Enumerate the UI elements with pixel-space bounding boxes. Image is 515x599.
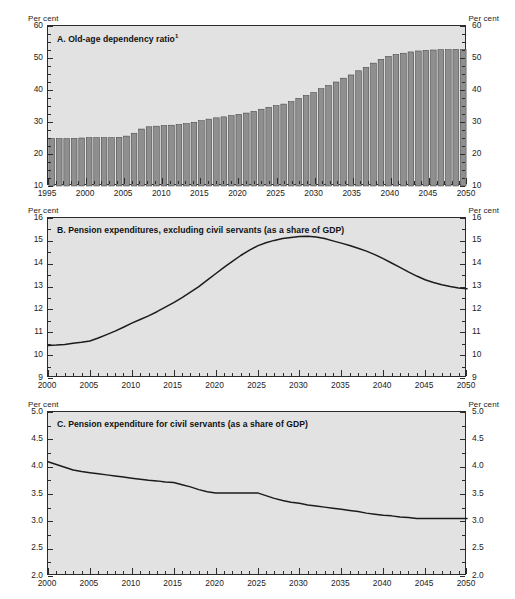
- x-axis-tick-mark: [48, 568, 49, 574]
- x-axis-tick-mark: [315, 178, 316, 184]
- x-axis-tick-mark: [199, 571, 200, 575]
- x-axis-tick-mark: [73, 373, 74, 377]
- x-axis-tick-mark: [316, 571, 317, 575]
- x-axis-tick-mark: [162, 178, 163, 184]
- x-axis-tick-mark: [408, 571, 409, 575]
- x-axis-tick-mark: [132, 568, 133, 574]
- y-axis-tick-mark: [462, 367, 465, 368]
- x-axis-tick-label: 2045: [419, 188, 438, 198]
- x-axis-tick-mark: [165, 571, 166, 575]
- x-axis-tick-mark: [149, 571, 150, 575]
- x-axis-tick-mark: [330, 181, 331, 185]
- x-axis-tick-mark: [368, 181, 369, 185]
- x-axis-tick-mark: [292, 181, 293, 185]
- x-axis-tick-label: 2040: [373, 578, 392, 588]
- bar: [146, 127, 152, 186]
- y-axis-tick-mark: [460, 287, 465, 288]
- x-axis-tick-mark: [316, 373, 317, 377]
- x-axis-tick-mark: [350, 373, 351, 377]
- y-axis-tick-mark: [460, 355, 465, 356]
- y-axis-tick-mark: [460, 154, 465, 155]
- x-axis-tick-mark: [353, 178, 354, 184]
- x-axis-tick-mark: [254, 181, 255, 185]
- bar: [176, 125, 182, 186]
- y-axis-tick-label-left: 5.0: [7, 407, 43, 415]
- x-axis-tick-mark: [123, 373, 124, 377]
- y-axis-tick-label-left: 2.5: [7, 543, 43, 551]
- x-axis-tick-mark: [425, 568, 426, 574]
- y-axis-tick-label-left: 15: [7, 235, 43, 243]
- y-axis-tick-mark: [48, 309, 53, 310]
- y-axis-tick-mark: [460, 549, 465, 550]
- x-axis-tick-mark: [400, 571, 401, 575]
- y-axis-tick-mark: [462, 130, 465, 131]
- bar: [341, 78, 347, 186]
- x-axis-tick-mark: [140, 373, 141, 377]
- y-axis-tick-mark: [48, 467, 53, 468]
- x-axis-tick-mark: [231, 181, 232, 185]
- x-axis-tick-mark: [147, 181, 148, 185]
- x-axis-tick-label: 2010: [152, 188, 171, 198]
- x-axis-tick-mark: [459, 373, 460, 377]
- x-axis-tick-mark: [366, 571, 367, 575]
- bar: [333, 82, 339, 186]
- bar: [206, 119, 212, 186]
- y-axis-tick-label-left: 40: [7, 85, 43, 93]
- x-axis-tick-mark: [232, 373, 233, 377]
- y-axis-tick-mark: [48, 34, 51, 35]
- bar: [79, 138, 85, 186]
- x-axis-tick-mark: [109, 181, 110, 185]
- bar: [139, 129, 145, 186]
- y-axis-tick-mark: [48, 298, 51, 299]
- data-line: [48, 236, 467, 345]
- x-axis-tick-mark: [277, 178, 278, 184]
- y-axis-tick-mark: [462, 480, 465, 481]
- x-axis-tick-mark: [266, 571, 267, 575]
- y-axis-tick-mark: [48, 412, 53, 413]
- y-axis-tick-mark: [460, 90, 465, 91]
- y-axis-tick-mark: [48, 378, 53, 379]
- y-axis-tick-mark: [48, 332, 53, 333]
- y-axis-tick-label-left: 14: [7, 258, 43, 266]
- x-axis-tick-mark: [266, 373, 267, 377]
- x-axis-tick-mark: [249, 373, 250, 377]
- y-axis-tick-mark: [48, 521, 53, 522]
- y-axis-tick-mark: [460, 378, 465, 379]
- y-axis-tick-mark: [462, 82, 465, 83]
- y-axis-tick-label-right: 2.5: [472, 543, 508, 551]
- x-axis-tick-mark: [308, 373, 309, 377]
- bar: [184, 124, 190, 186]
- y-axis-tick-mark: [462, 562, 465, 563]
- y-axis-tick-mark: [48, 58, 53, 59]
- x-axis-tick-mark: [341, 370, 342, 376]
- x-axis-tick-mark: [170, 181, 171, 185]
- y-axis-tick-mark: [48, 229, 51, 230]
- x-axis-tick-mark: [325, 571, 326, 575]
- y-axis-tick-label-right: 3.0: [472, 516, 508, 524]
- bar: [460, 49, 466, 186]
- x-axis-tick-mark: [429, 178, 430, 184]
- x-axis-tick-label: 2020: [228, 188, 247, 198]
- x-axis-tick-mark: [408, 373, 409, 377]
- bar: [258, 109, 264, 186]
- y-axis-tick-label-left: 20: [7, 149, 43, 157]
- x-axis-tick-mark: [450, 571, 451, 575]
- x-axis-tick-label: 2050: [457, 578, 476, 588]
- x-axis-tick-label: 2020: [205, 380, 224, 390]
- x-axis-tick-mark: [65, 373, 66, 377]
- y-axis-tick-mark: [462, 453, 465, 454]
- y-axis-tick-label-left: 3.5: [7, 489, 43, 497]
- x-axis-tick-mark: [82, 373, 83, 377]
- panel-a-old-age-dependency-ratio: Per cent Per cent A. Old-age dependency …: [0, 14, 515, 200]
- x-axis-tick-mark: [86, 178, 87, 184]
- x-axis-tick-mark: [466, 568, 467, 574]
- x-axis-tick-mark: [165, 373, 166, 377]
- y-axis-tick-mark: [460, 439, 465, 440]
- x-axis-tick-mark: [63, 181, 64, 185]
- y-axis-tick-label-right: 9: [472, 373, 508, 381]
- y-axis-tick-mark: [460, 412, 465, 413]
- y-axis-tick-mark: [462, 298, 465, 299]
- y-axis-tick-mark: [48, 576, 53, 577]
- x-axis-tick-mark: [291, 373, 292, 377]
- bar: [348, 75, 354, 186]
